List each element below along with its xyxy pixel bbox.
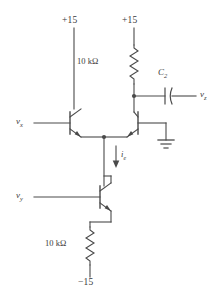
resistor-collector-symbol xyxy=(130,45,138,84)
q1-emitter-arrow xyxy=(75,131,81,137)
vz-subscript: z xyxy=(204,94,207,101)
vx-subscript: x xyxy=(20,121,23,128)
junction-dot-collector xyxy=(132,94,136,98)
label-input-x: vx xyxy=(16,117,23,128)
cap-subscript: 2 xyxy=(164,72,167,79)
q3-emitter-arrow xyxy=(105,205,111,211)
label-left-supply: +15 xyxy=(62,16,77,26)
label-right-supply: +15 xyxy=(122,16,137,26)
label-output-z: vz xyxy=(200,90,207,101)
label-negative-supply: −15 xyxy=(78,278,93,288)
label-input-y: vy xyxy=(16,191,23,202)
label-coupling-capacitor: C2 xyxy=(158,68,167,79)
ie-subscript: e xyxy=(123,155,126,161)
junction-dot-tail xyxy=(102,135,106,139)
tail-current-arrow-head xyxy=(113,161,120,169)
label-emitter-resistor: 10 kΩ xyxy=(45,239,66,248)
schematic-svg xyxy=(0,0,224,294)
q1-collector-lead xyxy=(70,109,81,117)
q3-collector-lead xyxy=(100,183,111,191)
vy-subscript: y xyxy=(20,195,23,202)
label-tail-current: ie xyxy=(121,150,126,161)
q2-emitter-arrow xyxy=(127,131,133,137)
label-collector-resistor: 10 kΩ xyxy=(77,57,98,66)
circuit-diagram: +15 +15 10 kΩ 10 kΩ −15 C2 vx vy vz ie xyxy=(0,0,224,294)
resistor-emitter-symbol xyxy=(86,227,94,265)
